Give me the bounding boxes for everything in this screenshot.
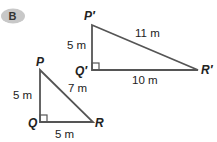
vertex-r: R — [95, 116, 104, 130]
badge-label: B — [9, 10, 17, 22]
side-pq: 5 m — [13, 89, 32, 101]
side-p-prime-q-prime: 5 m — [67, 39, 86, 51]
side-p-prime-r-prime: 11 m — [135, 27, 160, 39]
side-pr: 7 m — [68, 82, 87, 94]
triangle-large: P′ Q′ R′ 5 m 10 m 11 m — [67, 9, 214, 86]
side-q-prime-r-prime: 10 m — [132, 74, 158, 86]
right-angle-marker — [92, 63, 99, 70]
section-badge: B — [1, 9, 25, 24]
triangle-small: P Q R 5 m 5 m 7 m — [13, 55, 104, 140]
vertex-q: Q — [28, 116, 38, 130]
vertex-q-prime: Q′ — [75, 64, 88, 78]
right-angle-marker — [40, 115, 47, 122]
vertex-p: P — [36, 55, 45, 69]
vertex-p-prime: P′ — [84, 9, 96, 23]
triangles-diagram: B P′ Q′ R′ 5 m 10 m 11 m P Q R 5 m 5 m 7… — [0, 0, 217, 142]
side-qr: 5 m — [55, 128, 74, 140]
vertex-r-prime: R′ — [201, 63, 214, 77]
